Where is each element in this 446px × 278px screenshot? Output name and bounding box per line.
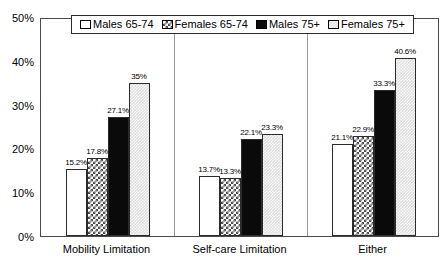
plot-inner: 15.2%17.8%27.1%35%13.7%13.3%22.1%23.3%21… <box>41 19 438 236</box>
bar <box>66 169 87 236</box>
legend-item-females-75: Females 75+ <box>328 19 405 30</box>
y-axis: 50%40%30%20%10%0% <box>0 12 36 236</box>
bar-value-label: 40.6% <box>391 48 420 56</box>
legend-swatch-icon <box>256 20 267 29</box>
bar-chart: 50%40%30%20%10%0% 15.2%17.8%27.1%35%13.7… <box>0 0 446 278</box>
bar <box>129 83 150 236</box>
y-axis-tick-label: 50% <box>12 13 34 24</box>
x-axis: Mobility LimitationSelf-care LimitationE… <box>40 243 439 263</box>
bar <box>332 144 353 236</box>
x-axis-category-label: Mobility Limitation <box>40 243 173 255</box>
legend-item-females-65-74: Females 65-74 <box>162 19 248 30</box>
bar <box>353 136 374 236</box>
bar <box>262 134 283 236</box>
bar <box>108 117 129 236</box>
bar <box>87 158 108 236</box>
plot-area: 15.2%17.8%27.1%35%13.7%13.3%22.1%23.3%21… <box>40 18 439 237</box>
bar-value-label: 23.3% <box>258 124 287 132</box>
bar <box>199 176 220 236</box>
legend-label: Males 65-74 <box>93 19 154 30</box>
legend-item-males-65-74: Males 65-74 <box>80 19 154 30</box>
bar <box>395 58 416 236</box>
legend-label: Females 75+ <box>341 19 405 30</box>
y-axis-tick-label: 20% <box>12 144 34 155</box>
x-axis-category-label: Either <box>306 243 439 255</box>
legend-swatch-icon <box>80 20 91 29</box>
y-axis-tick-label: 40% <box>12 57 34 68</box>
group-separator <box>307 19 308 236</box>
legend-swatch-icon <box>162 20 173 29</box>
bar <box>241 139 262 236</box>
chart-legend: Males 65-74Females 65-74Males 75+Females… <box>71 15 414 34</box>
bar <box>374 90 395 236</box>
legend-label: Males 75+ <box>269 19 320 30</box>
group-separator <box>174 19 175 236</box>
legend-item-males-75: Males 75+ <box>256 19 320 30</box>
x-axis-category-label: Self-care Limitation <box>173 243 306 255</box>
y-axis-tick-label: 0% <box>18 232 34 243</box>
y-axis-tick-label: 10% <box>12 188 34 199</box>
legend-label: Females 65-74 <box>175 19 248 30</box>
legend-swatch-icon <box>328 20 339 29</box>
bar <box>220 178 241 236</box>
y-axis-tick-label: 30% <box>12 101 34 112</box>
bar-value-label: 35% <box>125 73 154 81</box>
